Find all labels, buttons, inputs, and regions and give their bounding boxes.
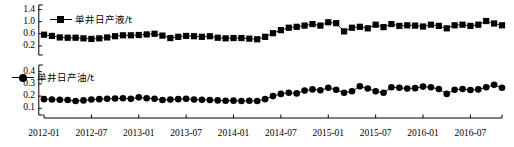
y-tick-label: 1.4 (23, 5, 35, 15)
legend-square-marker-icon (50, 19, 72, 20)
x-tick-label: 2013-07 (170, 128, 202, 138)
y-tick-label: 0.2 (23, 41, 35, 51)
x-tick-label: 2015-07 (360, 128, 392, 138)
plot-area-liquid (38, 0, 510, 68)
figure-production-curves: 1.41.00.60.2 单井日产液/t 0.40.30.20.1 单井日产油/… (0, 0, 514, 147)
legend-entry-oil: 单井日产油/t (12, 70, 94, 84)
legend-liquid: 单井日产液/t (50, 12, 132, 26)
x-tick-label: 2016-01 (407, 128, 439, 138)
chart-panel-liquid: 1.41.00.60.2 单井日产液/t (0, 0, 514, 68)
x-tick-label: 2013-01 (123, 128, 155, 138)
x-tick-label: 2015-01 (312, 128, 344, 138)
x-tick-label: 2014-07 (265, 128, 297, 138)
plot-area-oil (38, 62, 510, 128)
legend-label-oil: 单井日产油/t (37, 70, 94, 84)
y-tick-label: 0.1 (23, 103, 35, 113)
y-tick-label: 0.6 (23, 29, 35, 39)
chart-panel-oil: 0.40.30.20.1 单井日产油/t (0, 62, 514, 122)
legend-circle-marker-icon (12, 77, 34, 78)
x-axis-labels: 2012-012012-072013-012013-072014-012014-… (0, 128, 514, 144)
x-tick-label: 2014-01 (218, 128, 250, 138)
y-tick-label: 0.2 (23, 91, 35, 101)
x-tick-label: 2016-07 (455, 128, 487, 138)
x-tick-label: 2012-07 (76, 128, 108, 138)
y-tick-label: 1.0 (23, 17, 35, 27)
x-tick-label: 2012-01 (28, 128, 60, 138)
legend-entry-liquid: 单井日产液/t (50, 12, 132, 26)
legend-label-liquid: 单井日产液/t (75, 12, 132, 26)
legend-oil: 单井日产油/t (12, 70, 94, 84)
